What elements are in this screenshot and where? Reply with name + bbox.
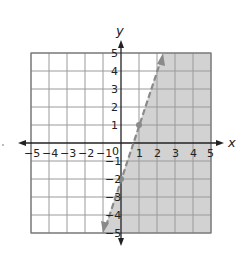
stray-dot — [2, 144, 4, 146]
x-tick: −2 — [78, 147, 94, 160]
x-tick: −4 — [42, 147, 58, 160]
arrow-up-icon — [118, 40, 124, 48]
x-tick: 4 — [190, 147, 197, 160]
arrow-right-icon — [216, 140, 224, 146]
arrow-left-icon — [18, 140, 26, 146]
y-tick: −2 — [105, 173, 121, 186]
y-tick: 2 — [111, 101, 118, 114]
y-tick: −3 — [105, 191, 121, 204]
x-tick: 5 — [207, 147, 214, 160]
y-tick: −1 — [105, 155, 121, 168]
x-tick: −3 — [60, 147, 76, 160]
y-tick: 5 — [111, 47, 118, 60]
x-tick: 2 — [154, 147, 161, 160]
y-tick: 4 — [111, 65, 118, 78]
y-tick: 3 — [111, 83, 118, 96]
y-tick: −4 — [105, 209, 121, 222]
x-tick: 1 — [136, 147, 143, 160]
coordinate-plane: x y −5 −4 −3 −2 −1 0 1 2 3 4 5 5 4 3 2 1… — [0, 0, 244, 256]
x-tick: 3 — [172, 147, 179, 160]
y-axis-label: y — [115, 23, 124, 38]
x-tick: −5 — [24, 147, 40, 160]
y-tick: 1 — [111, 119, 118, 132]
x-axis-label: x — [227, 135, 236, 150]
point-1-1 — [136, 122, 142, 128]
y-tick: −5 — [105, 227, 121, 240]
